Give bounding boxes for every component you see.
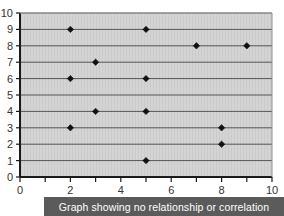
x-tick-label: 8 <box>219 184 225 196</box>
y-tick-label: 1 <box>7 155 13 167</box>
x-tick-label: 10 <box>266 184 278 196</box>
caption-text: Graph showing no relationship or correla… <box>59 201 269 213</box>
y-tick-label: 2 <box>7 138 13 150</box>
x-tick-label: 0 <box>17 184 23 196</box>
y-tick-label: 10 <box>1 7 13 19</box>
x-tick-label: 6 <box>168 184 174 196</box>
x-tick-label: 4 <box>118 184 124 196</box>
y-axis-tick-labels: 012345678910 <box>1 7 13 183</box>
caption-bar: Graph showing no relationship or correla… <box>44 197 284 216</box>
y-tick-label: 3 <box>7 122 13 134</box>
y-tick-label: 4 <box>7 105 13 117</box>
chart-canvas: 0246810 012345678910 <box>0 0 284 200</box>
y-tick-label: 5 <box>7 89 13 101</box>
y-tick-label: 8 <box>7 40 13 52</box>
scatter-plot-figure: 0246810 012345678910 Graph showing no re… <box>0 0 284 216</box>
y-tick-label: 0 <box>7 171 13 183</box>
x-tick-label: 2 <box>67 184 73 196</box>
y-tick-label: 7 <box>7 56 13 68</box>
y-tick-label: 6 <box>7 73 13 85</box>
y-tick-label: 9 <box>7 23 13 35</box>
x-axis-tick-labels: 0246810 <box>17 184 278 196</box>
